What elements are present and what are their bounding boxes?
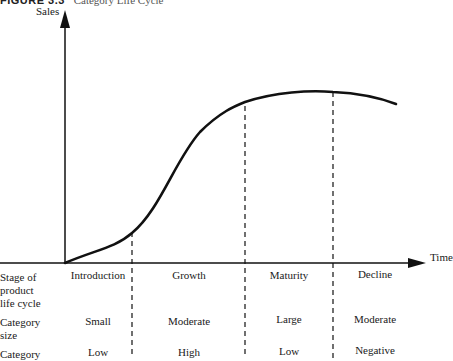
category-maturity: Low bbox=[279, 345, 299, 357]
row-label-category-size: Category size bbox=[0, 316, 40, 342]
size-growth: Moderate bbox=[168, 315, 210, 327]
row-label-category: Category bbox=[0, 348, 40, 361]
stage-growth: Growth bbox=[172, 269, 206, 281]
size-maturity: Large bbox=[276, 313, 301, 325]
category-decline: Negative bbox=[355, 344, 395, 356]
size-introduction: Small bbox=[85, 315, 111, 327]
stage-maturity: Maturity bbox=[270, 269, 309, 281]
category-growth: High bbox=[178, 346, 200, 358]
size-decline: Moderate bbox=[354, 313, 396, 325]
y-axis-arrow-icon bbox=[60, 10, 70, 28]
x-axis-label: Time bbox=[430, 251, 453, 264]
stage-introduction: Introduction bbox=[71, 269, 125, 281]
stage-decline: Decline bbox=[358, 268, 392, 280]
x-axis-arrow-icon bbox=[408, 258, 426, 268]
sales-curve bbox=[65, 91, 396, 263]
row-label-stage: Stage of product life cycle bbox=[0, 271, 41, 310]
y-axis-label: Sales bbox=[36, 5, 59, 18]
category-introduction: Low bbox=[88, 346, 108, 358]
